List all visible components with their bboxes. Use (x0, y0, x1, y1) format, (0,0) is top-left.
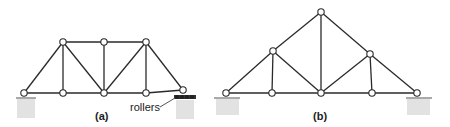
pin-joint-icon (318, 90, 324, 96)
pin-joint-icon (101, 90, 107, 96)
pin-joint-icon (369, 90, 375, 96)
pin-joint-icon (223, 90, 229, 96)
left-support-a (16, 98, 36, 118)
pin-joint-icon (367, 51, 373, 57)
truss-member (370, 54, 372, 93)
truss-a: rollers (a) (16, 39, 196, 122)
pin-joint-icon (21, 90, 27, 96)
right-support-b (406, 98, 432, 115)
truss-member (146, 42, 183, 90)
truss-member (273, 12, 321, 51)
roller-support-a (160, 95, 196, 119)
truss-member (321, 54, 370, 93)
rollers-annotation: rollers (130, 101, 160, 113)
label-b: (b) (313, 110, 327, 122)
label-a: (a) (95, 110, 109, 122)
truss-member (273, 51, 321, 93)
truss-member (370, 54, 417, 93)
members-a (24, 42, 183, 93)
truss-diagram: rollers (a) (b) (0, 0, 450, 127)
truss-member (146, 90, 183, 93)
truss-member (104, 42, 146, 93)
truss-member (321, 12, 370, 54)
pin-joint-icon (270, 48, 276, 54)
truss-member (226, 51, 273, 93)
pin-joint-icon (414, 90, 420, 96)
pin-joint-icon (60, 39, 66, 45)
truss-member (272, 51, 273, 93)
pin-joint-icon (143, 39, 149, 45)
members-b (226, 12, 417, 93)
truss-member (63, 42, 104, 93)
truss-member (24, 42, 63, 93)
left-support-b (214, 98, 240, 115)
pin-joint-icon (60, 90, 66, 96)
pin-joint-icon (101, 39, 107, 45)
pin-joint-icon (143, 90, 149, 96)
pin-joint-icon (269, 90, 275, 96)
pin-joint-icon (318, 9, 324, 15)
pin-joint-icon (180, 87, 186, 93)
truss-b: (b) (214, 9, 432, 122)
